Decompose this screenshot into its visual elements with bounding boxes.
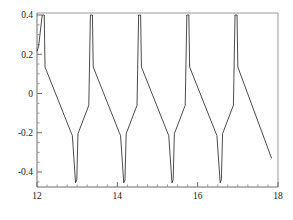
y-tick-label: -0.4	[18, 167, 33, 177]
y-tick-label: 0	[28, 89, 33, 99]
x-tick-label: 18	[273, 191, 283, 201]
x-tick-label: 16	[193, 191, 203, 201]
y-tick-label: -0.2	[18, 128, 33, 138]
x-tick-label: 12	[32, 191, 42, 201]
chart-figure: 12141618 0.40.20-0.2-0.4	[0, 0, 293, 220]
y-tick-label: 0.2	[21, 50, 33, 60]
y-tick-label: 0.4	[21, 10, 33, 20]
x-tick-label: 14	[113, 191, 123, 201]
line-chart: 12141618 0.40.20-0.2-0.4	[0, 0, 293, 220]
